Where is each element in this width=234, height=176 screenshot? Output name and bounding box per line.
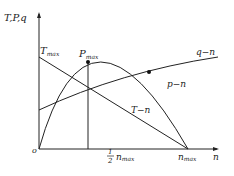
p-max-point [86,60,90,64]
t-n-label: T−n [131,105,151,115]
y-axis-arrow-icon [37,12,41,18]
origin-label: o [32,146,37,155]
nmax-tick-label: nmax [178,152,197,162]
q-n-label: q−n [196,47,215,57]
p-n-label: p−n [167,79,186,89]
t-n-line [39,57,188,149]
intersection-point [147,70,151,74]
svg-text:2: 2 [107,157,113,165]
axes [39,14,217,149]
x-axis-arrow-icon [213,147,219,151]
p-max-label: Pmax [78,48,99,60]
x-axis-label: n [213,152,219,162]
y-axis-label: T,P,q [4,12,27,23]
svg-text:nmax: nmax [116,152,135,162]
half-nmax-tick-label: 1 2 nmax [107,148,135,165]
t-max-label: Tmax [40,45,60,57]
p-n-curve [39,62,188,149]
svg-text:1: 1 [108,148,112,156]
diagram: T,P,q Tmax Pmax q−n p−n T−n o 1 2 nmax n… [0,0,234,176]
q-n-curve [39,57,218,110]
